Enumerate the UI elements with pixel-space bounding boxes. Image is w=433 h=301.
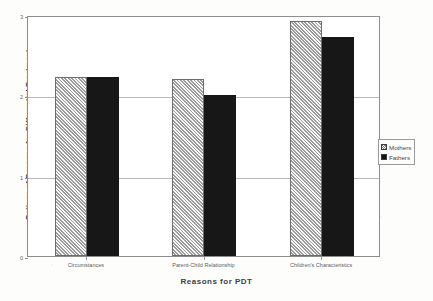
x-tick-mark — [204, 257, 205, 260]
bar-group — [146, 17, 264, 256]
y-tick-label: 0 — [20, 255, 23, 261]
bar-chart-figure: Ratings of Reasons for Differential Trea… — [0, 0, 433, 301]
y-tick-label: 1 — [20, 175, 23, 181]
bar-group — [263, 17, 381, 256]
bar-fathers[interactable] — [322, 37, 354, 256]
x-tick-mark — [86, 257, 87, 260]
y-tick-label: 3 — [20, 14, 23, 20]
legend-item-fathers[interactable]: Fathers — [381, 152, 411, 162]
bar-fathers[interactable] — [204, 95, 236, 256]
x-tick-label: Circumstances — [68, 262, 104, 268]
x-tick-label: Parent-Child Relationship — [172, 262, 234, 268]
y-tick-mark — [25, 258, 28, 259]
x-axis-title: Reasons for PDT — [0, 277, 433, 286]
bar-mothers[interactable] — [55, 77, 87, 256]
bar-series-container — [28, 17, 379, 256]
bar-mothers[interactable] — [172, 79, 204, 256]
legend-item-mothers[interactable]: Mothers — [381, 142, 411, 152]
y-tick-label: 2 — [20, 94, 23, 100]
legend-label-fathers: Fathers — [389, 154, 410, 161]
bar-fathers[interactable] — [87, 77, 119, 256]
legend-swatch-mothers-icon — [381, 144, 387, 150]
legend-swatch-fathers-icon — [381, 154, 387, 160]
bar-group — [28, 17, 146, 256]
x-tick-label: Children's Characteristics — [290, 262, 352, 268]
x-tick-mark — [321, 257, 322, 260]
chart-legend[interactable]: Mothers Fathers — [378, 139, 415, 165]
legend-label-mothers: Mothers — [389, 144, 411, 151]
bar-mothers[interactable] — [290, 21, 322, 256]
plot-area: 0123 — [27, 16, 380, 257]
